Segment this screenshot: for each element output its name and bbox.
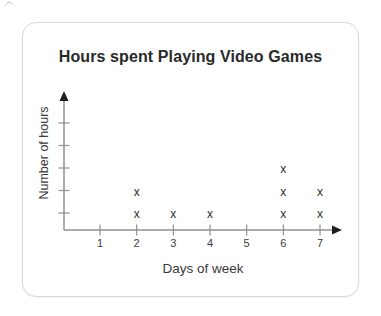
y-axis-arrowhead <box>60 91 69 101</box>
data-mark-x: x <box>207 207 213 221</box>
x-axis-tick-label: 6 <box>280 237 286 249</box>
x-axis-arrowhead <box>332 226 342 235</box>
data-mark-x: x <box>170 207 176 221</box>
x-axis-label: Days of week <box>64 261 342 276</box>
x-axis-tick-label: 7 <box>317 237 323 249</box>
x-axis-tick-label: 4 <box>207 237 213 249</box>
data-mark-x: x <box>280 207 286 221</box>
data-mark-x: x <box>134 185 140 199</box>
x-axis-tick-label: 3 <box>170 237 176 249</box>
data-mark-x: x <box>280 162 286 176</box>
data-mark-x: x <box>134 207 140 221</box>
x-axis-tick-label: 1 <box>97 237 103 249</box>
data-mark-x: x <box>317 185 323 199</box>
data-mark-x: x <box>317 207 323 221</box>
data-mark-x: x <box>280 185 286 199</box>
page: Hours spent Playing Video Games Number o… <box>0 0 381 316</box>
x-axis-tick-label: 5 <box>244 237 250 249</box>
x-axis-tick-label: 2 <box>134 237 140 249</box>
